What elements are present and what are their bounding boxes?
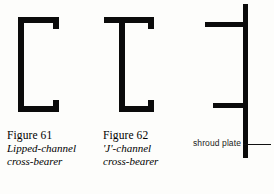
figure-62-subtitle: cross-bearer — [103, 155, 158, 168]
shroud-plate-vertical-web — [243, 4, 248, 158]
shroud-plate-label: shroud plate — [193, 138, 241, 148]
figure-61-caption: Figure 61 Lipped-channel cross-bearer — [7, 128, 76, 169]
figure-61-subtitle: cross-bearer — [7, 155, 76, 168]
j-channel-outline — [104, 17, 154, 112]
lipped-channel-outline — [18, 17, 59, 112]
figure-61-title: Lipped-channel — [7, 142, 76, 155]
figure-62-caption: Figure 62 'J'-channel cross-bearer — [103, 128, 158, 169]
figure-61-number: Figure 61 — [7, 128, 76, 142]
shroud-plate-drawing — [186, 2, 272, 160]
figure-62-number: Figure 62 — [103, 128, 158, 142]
illustration-page: Figure 61 Lipped-channel cross-bearer Fi… — [0, 0, 274, 194]
shroud-plate-upper-arm — [205, 22, 245, 27]
shroud-plate-lower-arm — [213, 103, 245, 108]
figure-62-title: 'J'-channel — [103, 142, 158, 155]
j-channel-section-drawing — [100, 12, 168, 126]
leader-line — [243, 144, 271, 145]
lipped-channel-section-drawing — [12, 12, 74, 126]
lipped-channel-svg — [12, 12, 74, 126]
shroud-plate-svg — [186, 2, 272, 160]
shroud-plate-annotation: shroud plate — [193, 138, 271, 148]
j-channel-svg — [100, 12, 168, 126]
